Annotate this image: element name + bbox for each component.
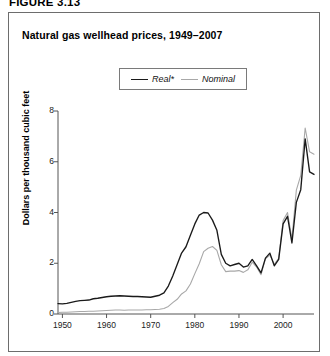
y-tick-label: 2 [44,257,54,267]
x-tick-marks [62,314,283,318]
figure-number-label: FIGURE 3.13 [9,0,80,8]
y-tick-label: 0 [44,308,54,318]
x-tick-label: 1970 [137,320,165,330]
y-tick-label: 6 [44,156,54,166]
x-tick-label: 1980 [181,320,209,330]
series-line-nominal [58,128,314,312]
x-tick-label: 1960 [93,320,121,330]
y-tick-label: 4 [44,207,54,217]
y-tick-label: 8 [44,105,54,115]
figure-frame: Natural gas wellhead prices, 1949–2007 R… [8,12,320,352]
x-tick-label: 1990 [225,320,253,330]
y-tick-marks [54,111,58,314]
axis-lines [58,111,314,314]
x-tick-label: 1950 [48,320,76,330]
line-chart-plot [9,13,320,352]
x-tick-label: 2000 [269,320,297,330]
series-line-real [58,139,314,304]
